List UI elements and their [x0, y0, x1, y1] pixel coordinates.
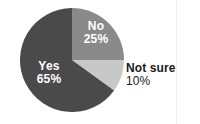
pie-label-yes-value: 65% [26, 73, 72, 86]
pie-label-no-value: 25% [74, 33, 118, 46]
pie-label-not-sure-value: 10% [126, 75, 190, 88]
pie-label-no: No 25% [74, 20, 118, 45]
pie-label-no-text: No [74, 20, 118, 33]
pie-label-not-sure: Not sure 10% [126, 62, 190, 87]
pie-label-yes-text: Yes [26, 60, 72, 73]
page-edge-artifact [176, 0, 177, 124]
pie-chart-figure: No 25% Yes 65% Not sure 10% [0, 0, 200, 124]
pie-label-not-sure-text: Not sure [126, 62, 190, 75]
pie-label-yes: Yes 65% [26, 60, 72, 85]
